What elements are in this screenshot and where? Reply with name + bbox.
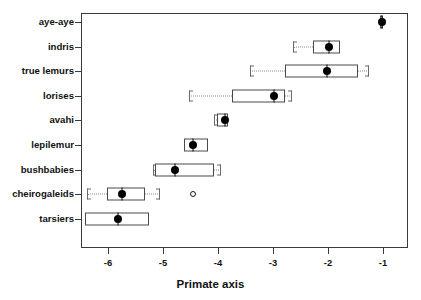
x-tick-label: -6 xyxy=(104,257,112,268)
y-axis-label-avahi: avahi xyxy=(49,116,74,126)
y-axis-label-indris: indris xyxy=(48,42,74,52)
median-point xyxy=(118,190,126,198)
whisker-left xyxy=(189,95,231,96)
whisker-left xyxy=(250,71,285,72)
x-axis-title: Primate axis xyxy=(0,278,421,290)
y-tick xyxy=(75,96,81,97)
x-tick xyxy=(273,248,274,254)
x-tick-label: -1 xyxy=(379,257,387,268)
y-axis-label-cheirogaleids: cheirogaleids xyxy=(12,189,74,199)
whisker-cap-right xyxy=(156,189,160,200)
x-tick-label: -2 xyxy=(324,257,332,268)
box xyxy=(107,188,146,201)
y-axis-label-bushbabies: bushbabies xyxy=(21,165,74,175)
whisker-cap-left xyxy=(87,189,91,200)
y-tick xyxy=(75,120,81,121)
y-axis-labels: aye-ayeindristrue lemurslorisesavahilepi… xyxy=(0,0,74,300)
x-tick xyxy=(383,248,384,254)
y-tick xyxy=(75,219,81,220)
y-tick xyxy=(75,22,81,23)
x-tick-label: -3 xyxy=(269,257,277,268)
box xyxy=(285,65,358,78)
y-axis-label-tarsiers: tarsiers xyxy=(39,214,74,224)
median-point xyxy=(270,92,278,100)
x-tick xyxy=(328,248,329,254)
median-point xyxy=(171,166,179,174)
y-axis-label-lepilemur: lepilemur xyxy=(31,140,74,150)
median-point xyxy=(114,215,122,223)
y-axis-label-aye-aye: aye-aye xyxy=(39,17,74,27)
x-tick-label: -4 xyxy=(214,257,222,268)
x-tick xyxy=(108,248,109,254)
y-axis-label-true-lemurs: true lemurs xyxy=(22,66,74,76)
whisker-cap-right xyxy=(365,66,369,77)
x-tick-label: -5 xyxy=(159,257,167,268)
box xyxy=(155,163,214,176)
whisker-cap-right xyxy=(288,90,292,101)
whisker-cap-right xyxy=(217,164,221,175)
y-tick xyxy=(75,145,81,146)
y-tick xyxy=(75,194,81,195)
whisker-cap-left xyxy=(189,90,193,101)
x-tick xyxy=(218,248,219,254)
chart-root: aye-ayeindristrue lemurslorisesavahilepi… xyxy=(0,0,421,300)
median-point xyxy=(323,67,331,75)
whisker-cap-left xyxy=(250,66,254,77)
median-point xyxy=(325,43,333,51)
outlier-point xyxy=(190,191,196,197)
median-point xyxy=(378,18,386,26)
y-tick xyxy=(75,170,81,171)
whisker-cap-left xyxy=(293,41,297,52)
y-axis-label-lorises: lorises xyxy=(43,91,74,101)
y-tick xyxy=(75,71,81,72)
median-point xyxy=(189,141,197,149)
x-tick xyxy=(163,248,164,254)
y-tick xyxy=(75,47,81,48)
median-point xyxy=(221,116,229,124)
